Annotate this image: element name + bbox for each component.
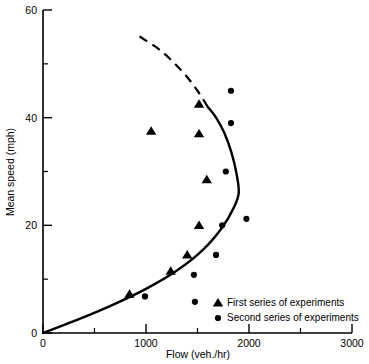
- x-axis-title: Flow (veh./hr): [166, 348, 230, 360]
- data-point-triangle: [146, 126, 156, 134]
- legend-marker-triangle: [213, 298, 223, 306]
- data-point-circle: [213, 252, 219, 258]
- x-tick-label: 2000: [237, 337, 261, 349]
- speed-flow-chart: 01000200030000204060 First series of exp…: [0, 0, 369, 364]
- legend-marker-circle: [215, 315, 221, 321]
- chart-canvas: 01000200030000204060 First series of exp…: [0, 0, 369, 364]
- data-point-triangle: [166, 266, 176, 274]
- x-tick-label: 1000: [134, 337, 158, 349]
- data-point-triangle: [124, 289, 134, 297]
- axes: [43, 10, 352, 333]
- series-2-markers: [142, 88, 250, 305]
- data-point-circle: [228, 88, 234, 94]
- data-point-triangle: [182, 250, 192, 258]
- data-points: [124, 88, 249, 305]
- data-point-circle: [192, 299, 198, 305]
- y-tick-label: 60: [25, 4, 37, 16]
- y-tick-label: 40: [25, 112, 37, 124]
- data-point-circle: [223, 168, 229, 174]
- fitted-curve: [43, 36, 239, 333]
- series-1-markers: [124, 99, 212, 298]
- data-point-circle: [243, 216, 249, 222]
- data-point-triangle: [202, 175, 212, 183]
- data-point-circle: [228, 120, 234, 126]
- data-point-circle: [191, 272, 197, 278]
- y-tick-label: 20: [25, 219, 37, 231]
- data-point-triangle: [194, 129, 204, 137]
- chart-legend: First series of experimentsSecond series…: [213, 297, 359, 323]
- legend-label: First series of experiments: [227, 297, 344, 308]
- data-point-triangle: [194, 220, 204, 228]
- data-point-circle: [219, 222, 225, 228]
- curve-solid-branch: [43, 107, 239, 333]
- curve-dashed-branch: [139, 36, 208, 107]
- y-tick-label: 0: [31, 327, 37, 339]
- y-axis-title: Mean speed (mph): [4, 128, 16, 216]
- legend-label: Second series of experiments: [227, 312, 359, 323]
- x-tick-label: 0: [40, 337, 46, 349]
- x-tick-label: 3000: [340, 337, 364, 349]
- data-point-circle: [142, 293, 148, 299]
